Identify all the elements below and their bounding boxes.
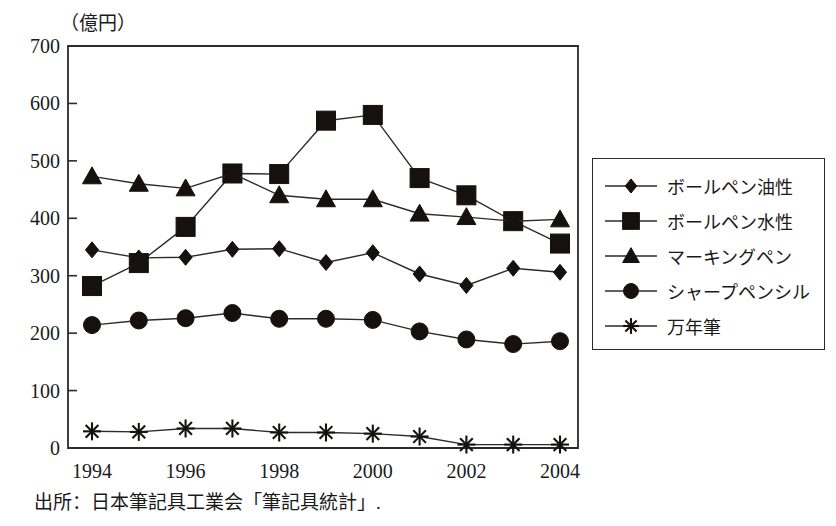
x-axis-tick-label: 1998 xyxy=(244,461,314,481)
marker-triangle xyxy=(270,186,289,203)
marker-triangle xyxy=(363,190,382,207)
legend-label: ボールペン油性 xyxy=(659,173,793,199)
chart-figure: （億円） 0100200300400500600700 199419961998… xyxy=(0,0,836,526)
legend-marker-circle-icon xyxy=(603,278,659,304)
marker-diamond xyxy=(460,277,473,293)
marker-square xyxy=(317,111,336,130)
legend-marker-square-icon xyxy=(603,208,659,234)
marker-circle xyxy=(177,310,194,327)
marker-star xyxy=(130,423,148,441)
marker-star xyxy=(551,436,569,454)
marker-circle xyxy=(224,305,241,322)
y-axis-unit-label: （億円） xyxy=(60,8,136,35)
legend-item-2[interactable]: ボールペン水性 xyxy=(603,206,793,236)
series-4 xyxy=(84,305,569,353)
marker-circle xyxy=(364,311,381,328)
marker-star xyxy=(411,428,429,446)
marker-star xyxy=(270,423,288,441)
x-axis-tick-label: 2004 xyxy=(525,461,595,481)
legend-item-4[interactable]: シャープペンシル xyxy=(603,276,810,306)
marker-triangle xyxy=(623,248,640,263)
marker-diamond xyxy=(85,242,98,258)
x-axis-tick-label: 1996 xyxy=(151,461,221,481)
y-axis-tick-labels: 0100200300400500600700 xyxy=(16,0,60,526)
marker-square xyxy=(457,186,476,205)
legend-marker-triangle-icon xyxy=(603,243,659,269)
marker-diamond xyxy=(273,241,286,257)
legend-marker-star-icon xyxy=(603,313,659,339)
marker-square xyxy=(410,169,429,188)
marker-diamond xyxy=(625,179,637,193)
y-axis-tick-label: 200 xyxy=(16,323,60,343)
marker-star xyxy=(364,425,382,443)
y-axis-tick-label: 600 xyxy=(16,93,60,113)
marker-circle xyxy=(552,333,569,350)
marker-diamond xyxy=(319,255,332,271)
marker-square xyxy=(363,105,382,124)
marker-diamond xyxy=(553,264,566,280)
marker-circle xyxy=(271,310,288,327)
x-axis-tick-label: 2002 xyxy=(431,461,501,481)
marker-diamond xyxy=(179,249,192,265)
marker-star xyxy=(177,419,195,437)
y-axis-tick-label: 400 xyxy=(16,208,60,228)
y-axis-tick-label: 500 xyxy=(16,151,60,171)
plot-frame xyxy=(68,46,578,448)
marker-star xyxy=(504,436,522,454)
marker-diamond xyxy=(226,241,239,257)
marker-square xyxy=(176,217,195,236)
marker-diamond xyxy=(366,245,379,261)
marker-diamond xyxy=(413,266,426,282)
legend-item-5[interactable]: 万年筆 xyxy=(603,311,721,341)
marker-star xyxy=(623,318,639,334)
marker-triangle xyxy=(410,204,429,221)
marker-triangle xyxy=(551,210,570,227)
source-note: 出所：日本筆記具工業会「筆記具統計」. xyxy=(34,487,381,514)
marker-star xyxy=(457,436,475,454)
marker-star xyxy=(317,423,335,441)
y-axis-tick-label: 0 xyxy=(16,438,60,458)
marker-square xyxy=(270,165,289,184)
marker-star xyxy=(223,419,241,437)
legend-item-3[interactable]: マーキングペン xyxy=(603,241,792,271)
y-axis-tick-label: 300 xyxy=(16,266,60,286)
marker-circle xyxy=(411,323,428,340)
legend-label: ボールペン水性 xyxy=(659,208,793,234)
marker-circle xyxy=(130,312,147,329)
x-axis-tick-label: 2000 xyxy=(338,461,408,481)
marker-triangle xyxy=(83,167,102,184)
x-axis-tick-label: 1994 xyxy=(57,461,127,481)
legend-label: マーキングペン xyxy=(659,243,792,269)
marker-star xyxy=(83,422,101,440)
legend-label: 万年筆 xyxy=(659,313,721,339)
legend-item-1[interactable]: ボールペン油性 xyxy=(603,171,793,201)
marker-circle xyxy=(318,310,335,327)
marker-square xyxy=(83,277,102,296)
series-3 xyxy=(83,164,570,229)
marker-circle xyxy=(505,336,522,353)
legend-marker-diamond-icon xyxy=(603,173,659,199)
marker-circle xyxy=(84,317,101,334)
marker-square xyxy=(623,213,640,230)
y-axis-tick-label: 100 xyxy=(16,381,60,401)
chart-legend: ボールペン油性ボールペン水性マーキングペンシャープペンシル万年筆 xyxy=(592,158,825,350)
marker-circle xyxy=(458,331,475,348)
marker-diamond xyxy=(507,260,520,276)
y-axis-tick-label: 700 xyxy=(16,36,60,56)
marker-square xyxy=(129,254,148,273)
marker-square xyxy=(551,234,570,253)
legend-label: シャープペンシル xyxy=(659,278,810,304)
marker-circle xyxy=(624,284,639,299)
